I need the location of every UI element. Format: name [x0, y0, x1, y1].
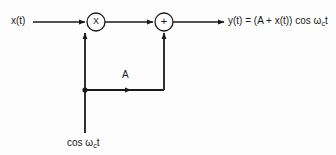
- carrier-label-suffix: t: [97, 137, 100, 148]
- carrier-signal-label: cos ωct: [67, 138, 100, 149]
- summer-symbol: +: [154, 16, 174, 27]
- multiplier-symbol: X: [86, 17, 106, 26]
- junction-dot: [82, 87, 87, 92]
- output-signal-label: y(t) = (A + x(t)) cos ωct: [228, 16, 328, 27]
- block-diagram-figure: X + x(t) y(t) = (A + x(t)) cos ωct cos ω…: [0, 0, 336, 155]
- output-label-suffix: t: [325, 15, 328, 26]
- input-signal-label: x(t): [11, 16, 25, 26]
- carrier-label-prefix: cos ω: [67, 137, 93, 148]
- amplitude-label: A: [122, 70, 129, 80]
- output-label-prefix: y(t) = (A + x(t)) cos ω: [228, 15, 321, 26]
